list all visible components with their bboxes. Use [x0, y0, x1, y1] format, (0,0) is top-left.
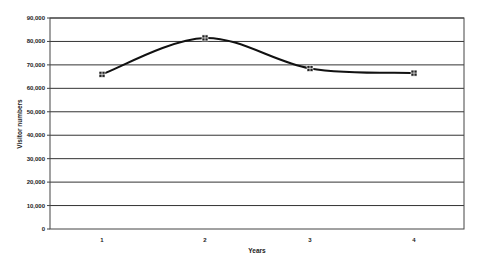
- y-tick-label: 0: [42, 226, 46, 232]
- line-chart: 010,00020,00030,00040,00050,00060,00070,…: [0, 0, 484, 267]
- y-tick-label: 40,000: [27, 132, 46, 138]
- x-axis-label: Years: [248, 247, 266, 254]
- gridlines: [50, 18, 464, 206]
- series-line: [102, 38, 414, 74]
- y-tick-label: 60,000: [27, 85, 46, 91]
- x-axis-ticks: 1234: [100, 237, 416, 243]
- y-tick-label: 20,000: [27, 179, 46, 185]
- y-tick-label: 10,000: [27, 203, 46, 209]
- x-tick-label: 1: [100, 237, 104, 243]
- y-tick-label: 90,000: [27, 15, 46, 21]
- x-tick-label: 3: [308, 237, 312, 243]
- y-tick-label: 30,000: [27, 156, 46, 162]
- y-tick-label: 70,000: [27, 62, 46, 68]
- y-axis-ticks: 010,00020,00030,00040,00050,00060,00070,…: [27, 15, 50, 232]
- y-axis-label: Visitor numbers: [16, 99, 23, 149]
- y-tick-label: 80,000: [27, 38, 46, 44]
- x-tick-label: 2: [203, 237, 207, 243]
- x-tick-label: 4: [412, 237, 416, 243]
- y-tick-label: 50,000: [27, 109, 46, 115]
